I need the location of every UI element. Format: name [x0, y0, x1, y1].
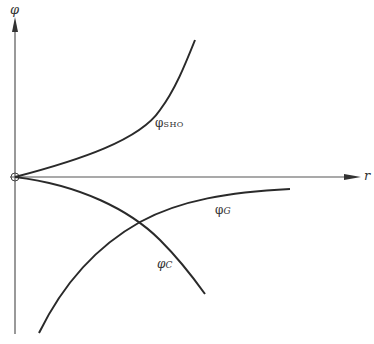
- curve-sho: [15, 40, 195, 177]
- x-axis-label: r: [364, 168, 370, 183]
- label-g: φG: [215, 203, 231, 217]
- label-g-subscript: G: [223, 206, 230, 216]
- label-sho-subscript: SHO: [163, 120, 184, 129]
- label-sho: φSHO: [155, 116, 184, 130]
- diagram-canvas: [0, 0, 374, 344]
- x-axis-arrow-icon: [344, 174, 361, 180]
- label-c: φC: [157, 257, 172, 271]
- y-axis-arrow-icon: [12, 17, 18, 32]
- curve-c: [15, 177, 205, 294]
- label-c-subscript: C: [165, 260, 172, 270]
- y-axis-label: φ: [10, 2, 19, 17]
